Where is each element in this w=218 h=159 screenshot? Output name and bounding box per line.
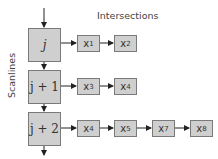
intersection-box: x4 [77, 120, 100, 137]
intersection-index: 8 [202, 125, 206, 133]
intersection-index: 1 [89, 40, 93, 48]
intersection-box: x7 [152, 120, 175, 137]
scanlines-axis-label: Scanlines [6, 51, 17, 101]
intersection-index: 4 [89, 125, 93, 133]
intersection-index: 3 [89, 83, 93, 91]
intersection-box: x3 [77, 78, 100, 95]
intersection-index: 4 [126, 83, 130, 91]
scanline-label: j + 2 [30, 122, 59, 136]
scanline-label: j [43, 38, 47, 52]
intersection-box: x2 [114, 35, 137, 52]
intersection-index: 2 [126, 40, 130, 48]
intersections-title: Intersections [97, 10, 158, 21]
scanline-box-j: j [28, 28, 61, 62]
scanline-box-j-plus-2: j + 2 [28, 112, 61, 146]
scanline-label: j + 1 [30, 80, 59, 94]
intersection-box: x5 [114, 120, 137, 137]
intersection-box: x4 [114, 78, 137, 95]
intersection-box: x8 [190, 120, 213, 137]
intersection-box: x1 [77, 35, 100, 52]
intersection-index: 7 [164, 125, 168, 133]
intersection-index: 5 [126, 125, 130, 133]
scanline-box-j-plus-1: j + 1 [28, 70, 61, 104]
